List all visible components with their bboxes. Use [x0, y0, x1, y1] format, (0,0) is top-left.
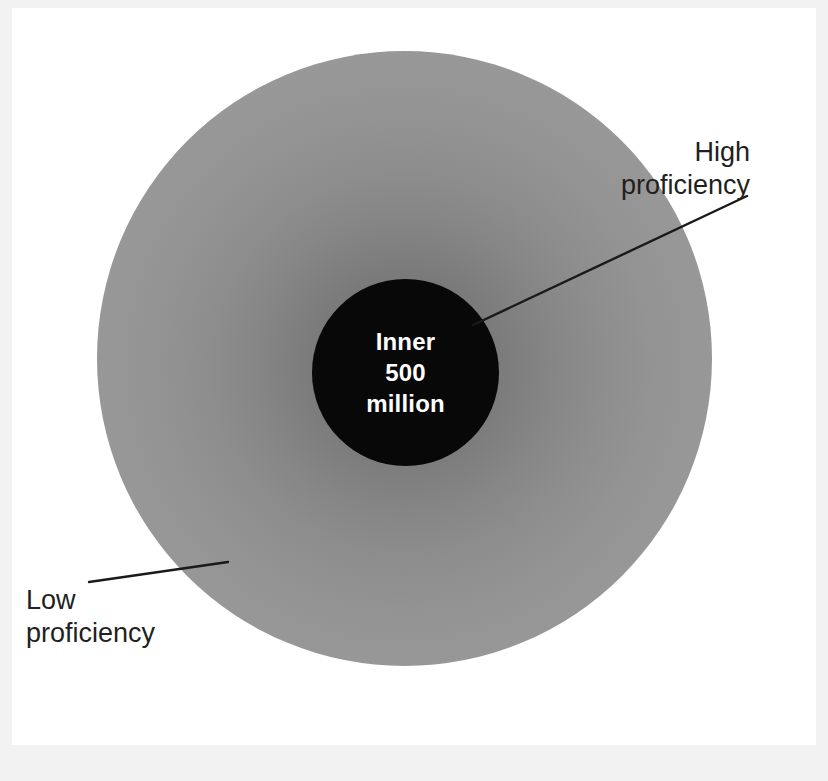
low-proficiency-annotation-label: Low proficiency — [26, 584, 155, 650]
inner-core-circle: Inner 500 million — [312, 279, 499, 466]
high-proficiency-annotation-label: High proficiency — [621, 136, 750, 202]
inner-circle-label: Inner 500 million — [366, 326, 445, 419]
diagram-canvas: Inner 500 million High proficiency Low p… — [0, 0, 828, 781]
